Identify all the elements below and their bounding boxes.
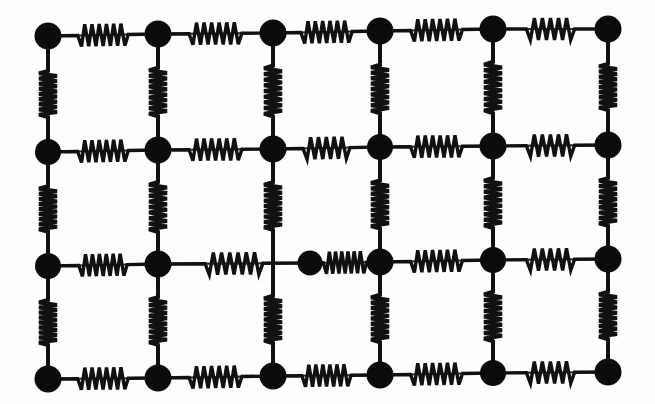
spring-vertical — [371, 31, 389, 147]
lattice-mass — [480, 133, 507, 160]
lattice-canvas — [0, 0, 655, 404]
spring-vertical — [484, 29, 502, 146]
lattice-mass — [260, 136, 287, 163]
lattice-mass — [260, 20, 287, 47]
lattice-figure — [0, 0, 655, 404]
lattice-mass — [595, 16, 622, 43]
lattice-mass — [595, 246, 622, 273]
lattice-mass — [480, 247, 506, 273]
spring-vertical — [484, 146, 502, 260]
lattice-mass — [145, 21, 172, 48]
lattice-mass — [367, 18, 394, 45]
lattice-mass — [367, 362, 394, 389]
spring-vertical — [149, 264, 167, 378]
lattice-mass — [367, 134, 393, 160]
lattice-mass — [480, 16, 507, 43]
spring-vertical — [599, 29, 617, 145]
spring-vertical — [599, 259, 617, 372]
mass-layer — [35, 16, 622, 393]
spring-vertical — [371, 147, 389, 262]
lattice-mass — [260, 363, 287, 390]
lattice-mass — [145, 251, 172, 278]
spring-vertical — [371, 262, 389, 375]
spring-vertical — [264, 149, 282, 263]
lattice-mass — [145, 137, 172, 164]
spring-vertical — [264, 33, 282, 149]
lattice-mass — [595, 132, 622, 159]
spring-vertical — [484, 260, 502, 373]
lattice-mass — [480, 360, 506, 386]
lattice-mass — [367, 249, 394, 276]
lattice-mass-displaced — [298, 251, 323, 276]
lattice-mass — [35, 23, 62, 50]
spring-vertical — [599, 145, 617, 259]
lattice-mass — [35, 366, 62, 393]
spring-vertical — [264, 263, 282, 376]
lattice-mass — [145, 365, 172, 392]
spring-vertical — [39, 152, 57, 266]
lattice-mass — [595, 359, 622, 386]
spring-layer — [39, 18, 617, 390]
spring-vertical — [149, 34, 167, 150]
bond-layer — [48, 29, 608, 379]
lattice-mass — [35, 253, 61, 279]
spring-vertical — [39, 266, 57, 379]
spring-vertical — [149, 150, 167, 264]
lattice-mass — [35, 139, 61, 165]
spring-vertical — [39, 36, 57, 152]
